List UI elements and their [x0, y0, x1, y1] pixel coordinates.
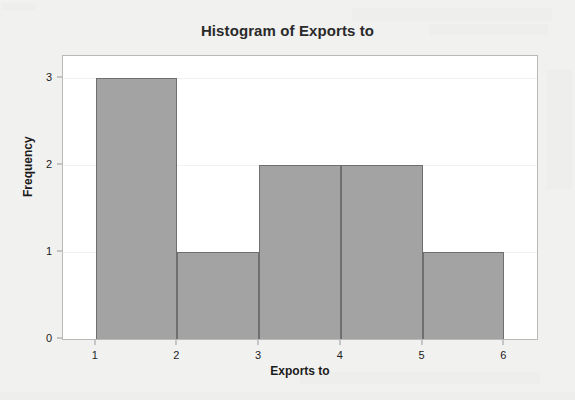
y-tick-mark: [57, 338, 62, 339]
histogram-bar[interactable]: [259, 165, 341, 339]
plot-inner: [63, 56, 537, 339]
y-tick-label: 0: [46, 332, 52, 344]
plot-area: [62, 55, 538, 340]
y-tick-label: 2: [46, 158, 52, 170]
x-tick-mark: [503, 340, 504, 345]
y-tick-mark: [57, 163, 62, 164]
x-tick-label: 1: [92, 349, 98, 361]
histogram-bar[interactable]: [341, 165, 423, 339]
histogram-figure: Histogram of Exports to 3 2 1 0 1: [0, 0, 575, 400]
x-tick-label: 5: [419, 349, 425, 361]
y-axis-label: Frequency: [21, 136, 35, 197]
y-tick-mark: [57, 250, 62, 251]
chart-title: Histogram of Exports to: [0, 22, 575, 39]
x-tick-mark: [339, 340, 340, 345]
histogram-bar[interactable]: [423, 252, 505, 339]
scan-artifact: [0, 392, 575, 400]
histogram-bar[interactable]: [96, 78, 178, 339]
y-tick-label: 3: [46, 71, 52, 83]
x-tick-label: 4: [337, 349, 343, 361]
scan-artifact: [546, 70, 572, 190]
bars-layer: [63, 56, 537, 339]
x-tick-mark: [421, 340, 422, 345]
x-tick-label: 2: [173, 349, 179, 361]
y-axis: 3 2 1 0: [0, 55, 62, 340]
x-tick-mark: [94, 340, 95, 345]
scan-artifact: [2, 3, 36, 10]
y-tick-label: 1: [46, 245, 52, 257]
x-tick-label: 6: [500, 349, 506, 361]
x-tick-mark: [176, 340, 177, 345]
x-axis-label: Exports to: [62, 364, 538, 378]
x-tick-mark: [258, 340, 259, 345]
scan-artifact: [352, 8, 552, 21]
histogram-bar[interactable]: [177, 252, 259, 339]
y-tick-mark: [57, 76, 62, 77]
x-tick-label: 3: [255, 349, 261, 361]
